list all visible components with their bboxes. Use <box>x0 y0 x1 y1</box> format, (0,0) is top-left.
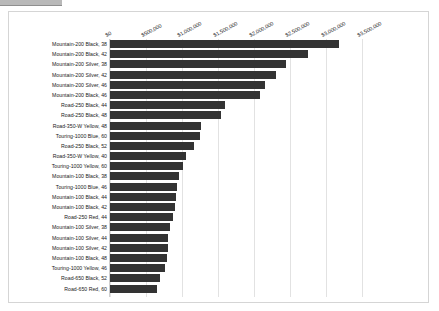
bar-row <box>110 121 361 131</box>
bar[interactable] <box>110 101 225 109</box>
x-tick-label: $500,000 <box>140 22 162 38</box>
x-tick-label: $2,500,000 <box>284 20 310 38</box>
x-tick-label: $0 <box>104 30 112 38</box>
bar-row <box>110 202 361 212</box>
category-label: Mountain-200 Black, 38 <box>21 39 107 49</box>
bar[interactable] <box>110 50 308 58</box>
bar-row <box>110 212 361 222</box>
bar-row <box>110 90 361 100</box>
category-label: Road-250 Red, 44 <box>21 212 107 222</box>
bar-row <box>110 233 361 243</box>
bar-row <box>110 141 361 151</box>
bar-row <box>110 263 361 273</box>
x-tick-label: $3,500,000 <box>356 20 382 38</box>
bar[interactable] <box>110 142 194 150</box>
bar-row <box>110 151 361 161</box>
category-label: Mountain-100 Silver, 44 <box>21 233 107 243</box>
bar-row <box>110 80 361 90</box>
x-tick-label: $3,000,000 <box>320 20 346 38</box>
bar-row <box>110 70 361 80</box>
plot-area <box>109 39 361 297</box>
x-axis-tick-labels: $0$500,000$1,000,000$1,500,000$2,000,000… <box>109 12 361 39</box>
bar-row <box>110 222 361 232</box>
category-label: Mountain-100 Black, 38 <box>21 171 107 181</box>
bar-row <box>110 171 361 181</box>
bar-row <box>110 49 361 59</box>
bar[interactable] <box>110 122 201 130</box>
bar-row <box>110 284 361 294</box>
bar-row <box>110 182 361 192</box>
category-label: Mountain-100 Black, 44 <box>21 192 107 202</box>
bar[interactable] <box>110 162 183 170</box>
bar[interactable] <box>110 274 160 282</box>
bar[interactable] <box>110 152 186 160</box>
bar-row <box>110 39 361 49</box>
x-tick-label: $1,000,000 <box>176 20 202 38</box>
category-label: Mountain-100 Silver, 42 <box>21 243 107 253</box>
category-label: Touring-1000 Blue, 46 <box>21 182 107 192</box>
bar[interactable] <box>110 60 286 68</box>
category-label: Mountain-200 Silver, 42 <box>21 70 107 80</box>
bar[interactable] <box>110 244 168 252</box>
category-label: Road-250 Black, 52 <box>21 141 107 151</box>
bar[interactable] <box>110 223 170 231</box>
gridline-7 <box>362 39 363 297</box>
bar[interactable] <box>110 71 276 79</box>
category-label: Mountain-100 Black, 48 <box>21 253 107 263</box>
bar[interactable] <box>110 40 339 48</box>
x-tick-label: $1,500,000 <box>212 20 238 38</box>
bar[interactable] <box>110 254 167 262</box>
bar[interactable] <box>110 264 165 272</box>
bar[interactable] <box>110 213 173 221</box>
bar-row <box>110 253 361 263</box>
category-label: Mountain-100 Black, 42 <box>21 202 107 212</box>
bar[interactable] <box>110 172 179 180</box>
bar-row <box>110 273 361 283</box>
x-tick-label: $2,000,000 <box>248 20 274 38</box>
bar[interactable] <box>110 183 177 191</box>
bar[interactable] <box>110 234 168 242</box>
bar[interactable] <box>110 285 157 293</box>
category-label: Mountain-200 Silver, 46 <box>21 80 107 90</box>
chart-frame: $0$500,000$1,000,000$1,500,000$2,000,000… <box>8 11 429 303</box>
bar-row <box>110 131 361 141</box>
category-label: Touring-1000 Yellow, 60 <box>21 161 107 171</box>
bar-row <box>110 192 361 202</box>
category-label: Touring-1000 Yellow, 46 <box>21 263 107 273</box>
category-label: Mountain-100 Silver, 38 <box>21 222 107 232</box>
category-label: Road-350-W Yellow, 40 <box>21 151 107 161</box>
y-axis-category-labels: Mountain-200 Black, 38Mountain-200 Black… <box>21 39 107 297</box>
bar-row <box>110 243 361 253</box>
bar-row <box>110 161 361 171</box>
category-label: Road-350-W Yellow, 48 <box>21 121 107 131</box>
category-label: Touring-1000 Blue, 60 <box>21 131 107 141</box>
window-top-stub <box>0 0 62 6</box>
bar[interactable] <box>110 111 221 119</box>
category-label: Mountain-200 Black, 42 <box>21 49 107 59</box>
bar-series <box>110 39 361 297</box>
category-label: Road-250 Black, 44 <box>21 100 107 110</box>
bar-row <box>110 59 361 69</box>
bar[interactable] <box>110 203 175 211</box>
bar[interactable] <box>110 81 265 89</box>
bar[interactable] <box>110 91 260 99</box>
category-label: Mountain-200 Silver, 38 <box>21 59 107 69</box>
category-label: Road-250 Black, 48 <box>21 110 107 120</box>
bar-row <box>110 100 361 110</box>
bar-row <box>110 110 361 120</box>
category-label: Road-650 Black, 52 <box>21 273 107 283</box>
category-label: Road-650 Red, 60 <box>21 284 107 294</box>
category-label: Mountain-200 Black, 46 <box>21 90 107 100</box>
bar[interactable] <box>110 132 200 140</box>
bar[interactable] <box>110 193 176 201</box>
